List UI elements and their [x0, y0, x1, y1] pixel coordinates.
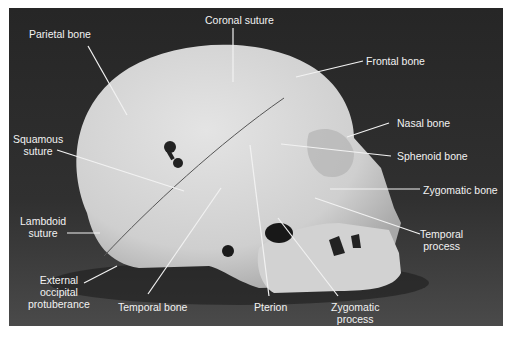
label-line: Temporal bone	[118, 301, 187, 313]
label-line: Nasal bone	[397, 117, 450, 129]
ear-canal	[222, 245, 234, 257]
label-external-occipital-protuberance: Externaloccipitalprotuberance	[28, 274, 90, 310]
skull-photo: Parietal boneCoronal sutureFrontal boneS…	[9, 8, 503, 326]
label-line: External	[28, 274, 90, 286]
label-nasal-bone: Nasal bone	[397, 117, 450, 129]
label-line: Lambdoid	[20, 215, 66, 227]
label-line: Sphenoid bone	[397, 150, 468, 162]
zygomatic-arch-gap	[265, 223, 293, 243]
label-line: Parietal bone	[29, 28, 91, 40]
label-line: Zygomatic bone	[423, 184, 498, 196]
label-line: Frontal bone	[366, 55, 425, 67]
label-temporal-bone: Temporal bone	[118, 301, 187, 313]
label-coronal-suture: Coronal suture	[205, 14, 274, 26]
label-pterion: Pterion	[254, 301, 287, 313]
label-line: Temporal	[420, 228, 463, 240]
label-line: process	[420, 240, 463, 252]
label-sphenoid-bone: Sphenoid bone	[397, 150, 468, 162]
label-frontal-bone: Frontal bone	[366, 55, 425, 67]
label-line: Zygomatic	[331, 301, 379, 313]
label-line: suture	[13, 145, 63, 157]
label-zygomatic-process: Zygomaticprocess	[331, 301, 379, 325]
label-zygomatic-bone: Zygomatic bone	[423, 184, 498, 196]
label-temporal-process: Temporalprocess	[420, 228, 463, 252]
label-parietal-bone: Parietal bone	[29, 28, 91, 40]
label-line: Squamous	[13, 133, 63, 145]
label-line: Pterion	[254, 301, 287, 313]
label-lambdoid-suture: Lambdoidsuture	[20, 215, 66, 239]
label-squamous-suture: Squamoussuture	[13, 133, 63, 157]
label-line: process	[331, 313, 379, 325]
label-line: protuberance	[28, 298, 90, 310]
label-line: suture	[20, 227, 66, 239]
label-line: occipital	[28, 286, 90, 298]
label-line: Coronal suture	[205, 14, 274, 26]
